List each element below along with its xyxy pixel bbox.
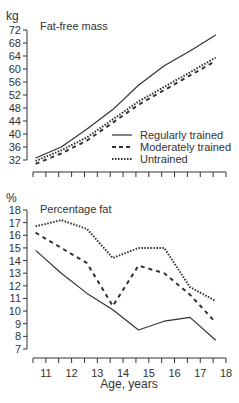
y-tick-label: 60 — [9, 63, 21, 75]
y-tick-label: 14 — [9, 255, 21, 267]
bottom-y-unit: % — [6, 191, 17, 205]
y-tick-label: 15 — [9, 242, 21, 254]
y-tick-label: 8 — [15, 330, 21, 342]
bottom-series-lines — [36, 220, 216, 340]
legend-label: Moderately trained — [140, 141, 231, 153]
y-tick-label: 40 — [9, 128, 21, 140]
chart-figure: kg Fat-free mass 3236404448525660646872 … — [0, 0, 239, 403]
top-chart-title: Fat-free mass — [40, 20, 108, 32]
y-tick-label: 11 — [10, 292, 21, 304]
y-tick-label: 10 — [9, 305, 21, 317]
y-tick-label: 52 — [9, 89, 21, 101]
top-y-unit: kg — [6, 9, 19, 23]
fat-free-mass-chart: kg Fat-free mass 3236404448525660646872 … — [0, 0, 231, 177]
y-tick-label: 13 — [9, 267, 21, 279]
legend-item-moderately-trained: Moderately trained — [112, 141, 231, 153]
y-tick-label: 16 — [9, 229, 21, 241]
legend-item-regularly-trained: Regularly trained — [112, 129, 223, 141]
percentage-fat-chart: % Percentage fat 789101112131415161718 1… — [6, 191, 232, 391]
y-tick-label: 12 — [9, 280, 21, 292]
series-line-moderately-trained — [36, 233, 216, 323]
x-axis-title: Age, years — [100, 377, 157, 391]
y-tick-label: 64 — [9, 50, 21, 62]
series-line-untrained — [36, 220, 216, 301]
x-tick-label: 11 — [40, 367, 51, 379]
bottom-chart-title: Percentage fat — [40, 203, 112, 215]
legend: Regularly trained Moderately trained Unt… — [0, 0, 231, 165]
y-tick-label: 7 — [15, 343, 21, 355]
x-tick-label: 18 — [220, 367, 232, 379]
y-tick-label: 56 — [9, 76, 21, 88]
x-tick-label: 12 — [65, 367, 77, 379]
y-tick-label: 36 — [9, 141, 21, 153]
y-tick-label: 68 — [9, 37, 21, 49]
top-x-axis — [33, 172, 226, 177]
x-tick-label: 16 — [168, 367, 180, 379]
y-tick-label: 18 — [9, 204, 21, 216]
legend-label: Untrained — [140, 153, 188, 165]
bottom-y-axis: 789101112131415161718 — [9, 204, 27, 355]
y-tick-label: 32 — [9, 154, 21, 166]
y-tick-label: 72 — [9, 24, 21, 36]
series-line-regularly-trained — [36, 250, 216, 340]
y-tick-label: 9 — [15, 318, 21, 330]
x-tick-label: 17 — [194, 367, 206, 379]
y-tick-label: 48 — [9, 102, 21, 114]
top-y-axis: 3236404448525660646872 — [9, 24, 27, 166]
y-tick-label: 17 — [9, 217, 21, 229]
y-tick-label: 44 — [9, 115, 21, 127]
legend-label: Regularly trained — [140, 129, 223, 141]
bottom-x-axis: 1112131415161718 — [33, 358, 232, 379]
legend-item-untrained: Untrained — [112, 153, 188, 165]
